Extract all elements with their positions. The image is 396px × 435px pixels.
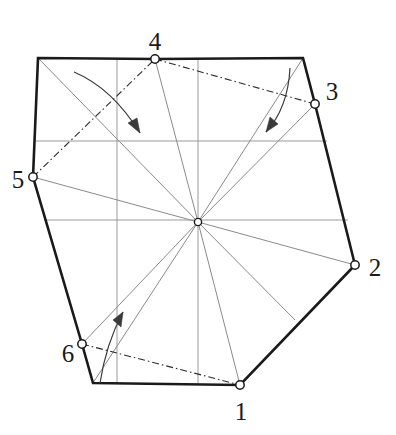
vertex-label-6: 6 [62, 341, 75, 366]
vertex-label-1: 1 [235, 399, 248, 424]
arrow-bottom-left-head [113, 312, 123, 327]
vertex-label-4: 4 [149, 29, 162, 54]
polygon-diagram [0, 0, 396, 435]
grid-layer [35, 58, 348, 384]
ray-to-lower-right-edge [198, 222, 295, 320]
chord-6-1 [82, 344, 240, 385]
center-marker [194, 218, 201, 225]
ray-to-vertex-3 [198, 104, 315, 222]
arrow-top-left-head [128, 118, 140, 133]
vertex-marker-2 [351, 261, 359, 269]
marker-layer [29, 55, 359, 389]
vertex-marker-1 [236, 381, 244, 389]
chord-layer [33, 59, 315, 385]
figure-root: 123456 [0, 0, 396, 435]
vertex-marker-5 [29, 173, 37, 181]
ray-to-vertex-6 [82, 222, 198, 344]
ray-to-vertex-1 [198, 222, 240, 385]
vertex-marker-6 [78, 340, 86, 348]
ray-to-vertex-2 [198, 222, 355, 265]
vertex-label-2: 2 [369, 255, 382, 280]
ray-to-vertex-5 [33, 177, 198, 222]
vertex-label-5: 5 [12, 167, 25, 192]
arrow-layer [74, 68, 290, 383]
grid-vertical-lines [117, 58, 198, 384]
grid-horizontal-lines [35, 141, 348, 220]
chord-4-3 [155, 59, 315, 104]
ray-to-corner-bottom-left [93, 222, 198, 383]
ray-to-corner-top-right [198, 58, 303, 222]
vertex-marker-3 [311, 100, 319, 108]
rotation-arrows [74, 68, 290, 383]
dash-dot-chords [33, 59, 315, 385]
vertex-marker-4 [151, 55, 159, 63]
ray-to-corner-top-left [38, 58, 198, 222]
vertex-label-3: 3 [326, 79, 339, 104]
